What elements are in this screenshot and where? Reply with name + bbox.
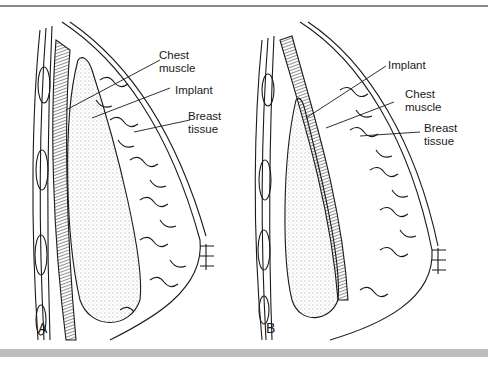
label-a-implant: Implant — [175, 84, 213, 97]
breast-implant-diagram — [0, 0, 496, 366]
panel-letter-b: B — [266, 320, 275, 336]
bottom-divider-bar — [0, 349, 488, 357]
label-a-breast-tissue: Breast tissue — [188, 110, 221, 136]
label-b-chest-muscle: Chest muscle — [405, 88, 441, 114]
panel-letter-a: A — [38, 320, 47, 336]
label-b-implant: Implant — [388, 59, 426, 72]
label-a-chest-muscle: Chest muscle — [159, 49, 195, 75]
label-b-breast-tissue: Breast tissue — [424, 122, 457, 148]
